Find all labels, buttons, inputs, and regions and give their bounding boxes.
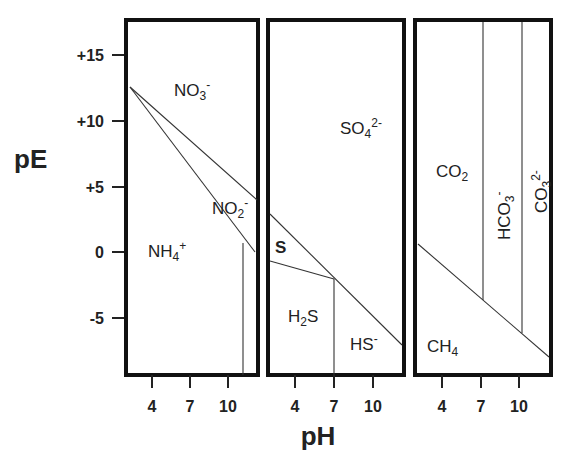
species-co2: CO2: [436, 162, 469, 184]
species-so4: SO42-: [340, 116, 382, 141]
x-tick-label: 4: [148, 398, 157, 415]
x-tick-label: 10: [364, 398, 382, 415]
x-tick-label: 10: [510, 398, 528, 415]
panel-carbon: 4 7 10 CO2 HCO3- CO32- CH4: [415, 20, 554, 415]
y-tick-label: -5: [90, 310, 104, 327]
x-tick-label: 4: [291, 398, 300, 415]
species-no3: NO3-: [174, 78, 210, 103]
x-axis-title: pH: [301, 421, 336, 451]
species-hs: HS-: [350, 332, 378, 354]
y-axis-title: pE: [14, 144, 47, 174]
panel-nitrogen: 4 7 10 NO3- NO2- NH4+: [126, 20, 258, 415]
species-hco3: HCO3-: [492, 192, 517, 240]
species-no2: NO2-: [212, 196, 248, 221]
y-tick-label: 0: [95, 244, 104, 261]
species-h2s: H2S: [288, 307, 318, 329]
species-s: S: [275, 238, 286, 257]
x-tick-label: 7: [330, 398, 339, 415]
x-tick-label: 4: [438, 398, 447, 415]
x-tick-label: 10: [219, 398, 237, 415]
y-tick-label: +10: [77, 113, 104, 130]
x-tick-label: 7: [477, 398, 486, 415]
species-ch4: CH4: [427, 337, 459, 359]
y-axis: +15 +10 +5 0 -5: [77, 47, 126, 327]
species-nh4: NH4+: [148, 239, 186, 264]
y-tick-label: +15: [77, 47, 104, 64]
x-tick-label: 7: [186, 398, 195, 415]
y-tick-label: +5: [86, 179, 104, 196]
panel-sulfur: 4 7 10 SO42- S H2S HS-: [268, 20, 404, 415]
pe-ph-diagram: pE +15 +10 +5 0 -5 4 7 10 NO3- NO2-: [0, 0, 562, 464]
